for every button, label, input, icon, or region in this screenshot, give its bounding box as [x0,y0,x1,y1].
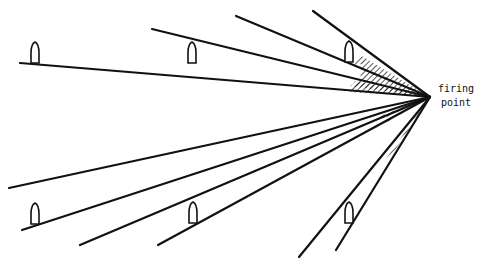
bullet-upper-right-icon [345,41,353,62]
bullet-lower-mid-icon [189,202,197,223]
ray-lower-3 [80,97,430,245]
bullet-upper-left-icon [31,42,39,63]
ray-lines [9,11,430,257]
firing-point-label-line1: firing [438,82,474,96]
firing-point-label-line2: point [438,96,474,110]
bullet-upper-mid-icon [188,42,196,63]
ray-lower-4 [158,97,430,245]
firing-point-label: firing point [438,82,474,110]
ray-lower-6 [336,97,430,250]
bullet-lower-left-icon [31,203,39,224]
bullet-lower-right-icon [345,202,353,223]
ray-lower-2 [22,97,430,230]
firing-point-ray-diagram [0,0,481,266]
